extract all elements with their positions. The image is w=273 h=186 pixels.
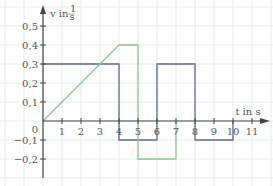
y-tick-label: −0,1 [14,135,38,146]
x-tick-label: 9 [211,126,217,137]
origin-label: 0 [32,124,38,135]
x-axis-label: t in s [235,106,260,117]
tick-labels: 12345678910110,50,40,30,20,1−0,1−0,20t i… [14,3,261,165]
y-axis-unit-denominator: s [70,11,75,22]
x-tick-label: 6 [154,126,160,137]
x-tick-label: 5 [135,126,141,137]
axes [40,5,270,178]
x-tick-label: 2 [78,126,84,137]
y-axis-label: v in [49,8,69,19]
x-tick-label: 10 [227,126,240,137]
velocity-time-chart: 12345678910110,50,40,30,20,1−0,1−0,20t i… [0,0,273,186]
y-tick-label: −0,2 [14,154,38,165]
grid-lines [0,0,273,186]
y-axis-arrow-icon [40,5,46,14]
x-tick-label: 1 [59,126,65,137]
x-tick-label: 8 [192,126,198,137]
y-tick-label: 0,3 [22,59,38,70]
x-tick-label: 11 [246,126,259,137]
x-tick-label: 3 [97,126,103,137]
y-tick-label: 0,1 [22,97,38,108]
y-tick-label: 0,2 [22,78,38,89]
x-axis-arrow-icon [260,118,270,124]
x-tick-label: 7 [173,126,179,137]
y-tick-label: 0,4 [22,40,38,51]
x-tick-label: 4 [116,126,122,137]
y-tick-label: 0,5 [22,21,38,32]
